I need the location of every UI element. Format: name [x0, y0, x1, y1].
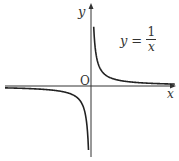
curve-negative-branch [5, 88, 89, 150]
formula-fraction: 1 x [146, 26, 156, 54]
x-axis-label: x [167, 87, 174, 101]
formula-lhs: y [120, 33, 127, 48]
y-axis-arrow-icon [89, 3, 94, 9]
formula-denominator: x [148, 40, 155, 54]
y-axis-label: y [78, 4, 85, 19]
formula-numerator: 1 [147, 26, 155, 39]
function-formula: y = 1 x [120, 26, 156, 54]
origin-label: O [80, 74, 90, 88]
formula-equals: = [131, 33, 142, 48]
